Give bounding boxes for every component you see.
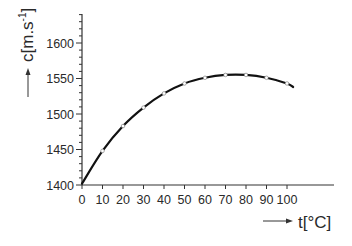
y-axis-title-main: c[m.s [18,21,37,62]
y-tick-label: 1450 [46,143,74,157]
x-tick-label: 60 [198,193,212,207]
x-tick-label: 80 [239,193,253,207]
data-point-marker [224,73,228,77]
data-point-marker [162,92,166,96]
y-tick-label: 1550 [46,72,74,86]
data-point-marker [183,82,187,86]
x-tick-label: 20 [116,193,130,207]
x-axis-arrow-icon [263,219,293,224]
y-tick-label: 1500 [46,108,74,122]
y-axis-arrow-icon [26,68,31,97]
x-tick-label: 50 [178,193,192,207]
data-point-marker [265,76,269,80]
x-tick-label: 70 [219,193,233,207]
y-tick-label: 1600 [46,37,74,51]
x-tick-label: 100 [277,193,298,207]
y-axis-title-close: ] [18,8,37,13]
y-axis: 14001450150015501600 [46,14,82,193]
x-axis-title: t[°C] [298,213,331,232]
y-axis-title: c[m.s-1] [17,8,37,62]
data-point-marker [101,149,105,153]
svg-text:c[m.s-1]: c[m.s-1] [17,8,37,62]
x-axis: 0102030405060708090100 [79,185,334,207]
data-point-marker [244,73,248,77]
x-tick-label: 40 [157,193,171,207]
chart: 14001450150015501600 0102030405060708090… [0,0,352,246]
data-point-marker [285,82,289,86]
x-tick-label: 0 [79,193,86,207]
data-series [82,73,293,183]
data-point-marker [203,76,207,80]
x-tick-label: 10 [96,193,110,207]
data-point-marker [142,106,146,110]
x-tick-label: 30 [137,193,151,207]
data-point-marker [121,124,125,128]
series-line [82,75,293,184]
y-tick-label: 1400 [46,179,74,193]
x-tick-label: 90 [260,193,274,207]
